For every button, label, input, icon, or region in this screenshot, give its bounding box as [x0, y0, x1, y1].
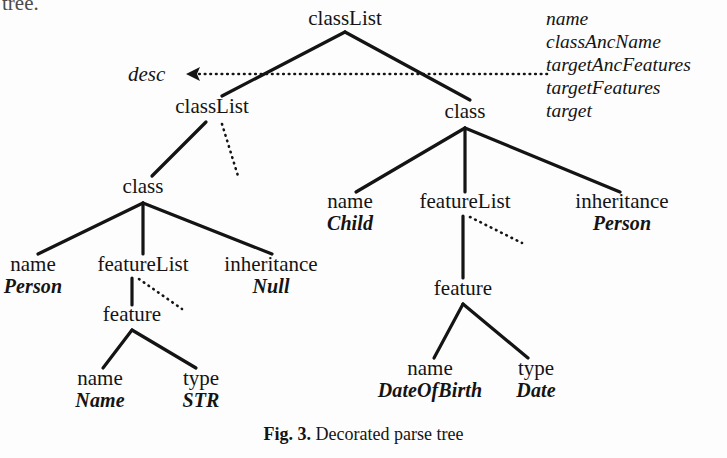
tree-node-ftype1: typeSTR [183, 368, 220, 411]
tree-node-fname1: nameName [75, 368, 124, 411]
tree-node-root: classList [308, 8, 382, 30]
tree-node-inherit1: inheritanceNull [224, 254, 317, 297]
attribute-name: name [546, 8, 588, 30]
tree-node-ftype2: typeDate [516, 358, 555, 401]
tree-node-name2: nameChild [327, 191, 373, 234]
desc-arrow-label: desc [128, 62, 165, 87]
node-symbol: name [378, 358, 482, 380]
tree-edge-solid [38, 203, 143, 254]
tree-node-featList2: featureList [420, 191, 511, 213]
node-symbol: name [327, 191, 373, 213]
attribute-targetancfeatures: targetAncFeatures [546, 54, 691, 76]
attribute-targetfeatures: targetFeatures [546, 77, 660, 99]
node-value: Name [75, 390, 124, 411]
tree-node-classList2: classList [175, 96, 249, 118]
attribute-classancname: classAncName [546, 31, 661, 53]
node-value: Person [4, 276, 62, 297]
figure-number: Fig. 3. [264, 424, 312, 444]
tree-node-inherit2: inheritancePerson [575, 191, 668, 234]
tree-edge-solid [356, 128, 465, 192]
node-value: Child [327, 213, 373, 234]
figure-caption-text: Decorated parse tree [316, 424, 464, 444]
node-symbol: classList [175, 96, 249, 118]
tree-node-name1: namePerson [4, 254, 62, 297]
node-symbol: feature [103, 304, 161, 326]
tree-node-class1: class [123, 176, 164, 198]
node-symbol: name [75, 368, 124, 390]
node-symbol: class [445, 101, 486, 123]
tree-node-feature1: feature [103, 304, 161, 326]
desc-dotted-arrow [186, 67, 547, 81]
decorated-parse-tree-figure: tree. desc nameclassAncNametargetAncFeat… [0, 0, 727, 458]
node-value: STR [183, 390, 220, 411]
tree-edge-solid [463, 304, 528, 358]
tree-node-fname2: nameDateOfBirth [378, 358, 482, 401]
node-symbol: inheritance [224, 254, 317, 276]
node-symbol: inheritance [575, 191, 668, 213]
tree-edge-solid [434, 304, 463, 358]
tree-edge-solid [132, 330, 196, 368]
node-value: DateOfBirth [378, 380, 482, 401]
tree-edge-dotted [470, 217, 522, 243]
node-value: Date [516, 380, 555, 401]
tree-edge-solid [222, 32, 345, 96]
node-symbol: featureList [98, 254, 189, 276]
node-value: Null [224, 276, 317, 297]
node-symbol: type [183, 368, 220, 390]
node-symbol: feature [434, 278, 492, 300]
tree-edge-solid [143, 203, 272, 254]
tree-edge-dotted [222, 124, 238, 176]
node-value: Person [575, 213, 668, 234]
node-symbol: class [123, 176, 164, 198]
tree-node-feature2: feature [434, 278, 492, 300]
tree-edge-solid [465, 128, 620, 192]
node-symbol: featureList [420, 191, 511, 213]
desc-arrow-head [186, 67, 200, 81]
attribute-target: target [546, 100, 592, 122]
tree-edge-solid [103, 330, 132, 368]
node-symbol: type [516, 358, 555, 380]
tree-edge-solid [345, 32, 470, 100]
tree-edge-solid [152, 122, 206, 176]
node-symbol: name [4, 254, 62, 276]
figure-caption: Fig. 3. Decorated parse tree [0, 424, 727, 445]
tree-node-featList1: featureList [98, 254, 189, 276]
node-symbol: classList [308, 8, 382, 30]
tree-node-class2: class [445, 101, 486, 123]
